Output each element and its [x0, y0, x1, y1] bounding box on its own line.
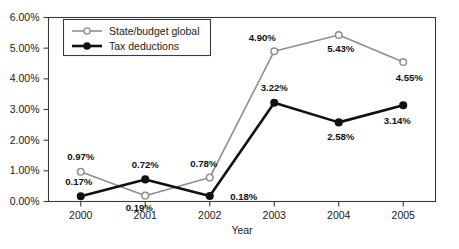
- y-axis-tick-labels: 0.00%1.00%2.00%3.00%4.00%5.00%6.00%: [10, 11, 40, 207]
- x-tick-label: 2003: [263, 209, 287, 221]
- y-tick-label: 6.00%: [10, 11, 40, 23]
- x-tick-label: 2000: [69, 209, 93, 221]
- y-axis-ticks: [44, 18, 49, 202]
- series-marker-0-5: [400, 59, 407, 66]
- series-marker-1-0: [77, 193, 84, 200]
- y-tick-label: 5.00%: [10, 42, 40, 54]
- y-tick-label: 0.00%: [10, 195, 40, 207]
- data-label-0-4: 5.43%: [327, 43, 355, 54]
- data-label-1-3: 3.22%: [261, 82, 289, 93]
- series-marker-0-3: [271, 48, 278, 55]
- data-label-1-0: 0.17%: [65, 176, 93, 187]
- legend-label-tax-deductions: Tax deductions: [109, 40, 179, 52]
- y-tick-label: 1.00%: [10, 164, 40, 176]
- series-marker-0-0: [77, 168, 84, 175]
- chart-canvas: 0.00%1.00%2.00%3.00%4.00%5.00%6.00% 2000…: [0, 0, 459, 249]
- y-tick-label: 4.00%: [10, 72, 40, 84]
- legend-marker-tax-deductions: [84, 43, 90, 49]
- series-line-0: [81, 35, 404, 196]
- data-label-1-5: 3.14%: [384, 115, 412, 126]
- series-marker-0-4: [335, 32, 342, 39]
- series-marker-1-5: [400, 102, 407, 109]
- data-label-0-1: 0.19%: [126, 202, 154, 213]
- x-tick-label: 2002: [198, 209, 222, 221]
- data-label-0-0: 0.97%: [67, 151, 95, 162]
- x-tick-label: 2005: [392, 209, 416, 221]
- data-label-0-3: 4.90%: [249, 32, 277, 43]
- data-label-1-2: 0.18%: [230, 191, 258, 202]
- data-label-0-2: 0.78%: [190, 158, 218, 169]
- data-label-0-5: 4.55%: [396, 72, 424, 83]
- series-marker-1-1: [142, 176, 149, 183]
- y-tick-label: 2.00%: [10, 134, 40, 146]
- series-marker-1-2: [206, 193, 213, 200]
- chart-legend: State/budget global Tax deductions: [64, 20, 211, 56]
- line-chart: 0.00%1.00%2.00%3.00%4.00%5.00%6.00% 2000…: [0, 0, 459, 249]
- x-tick-label: 2004: [327, 209, 351, 221]
- series-line-1: [81, 103, 404, 197]
- x-axis-tick-labels: 200020012002200320042005: [69, 209, 415, 221]
- legend-label-state-budget-global: State/budget global: [109, 25, 200, 37]
- x-axis-title: Year: [231, 224, 253, 236]
- series-marker-0-1: [142, 192, 149, 199]
- y-tick-label: 3.00%: [10, 103, 40, 115]
- series-marker-1-3: [271, 99, 278, 106]
- series-marker-1-4: [335, 119, 342, 126]
- series-marker-0-2: [206, 174, 213, 181]
- data-label-1-4: 2.58%: [327, 131, 355, 142]
- legend-marker-state-budget-global: [84, 28, 90, 34]
- series-lines: [81, 35, 404, 196]
- data-label-1-1: 0.72%: [132, 159, 160, 170]
